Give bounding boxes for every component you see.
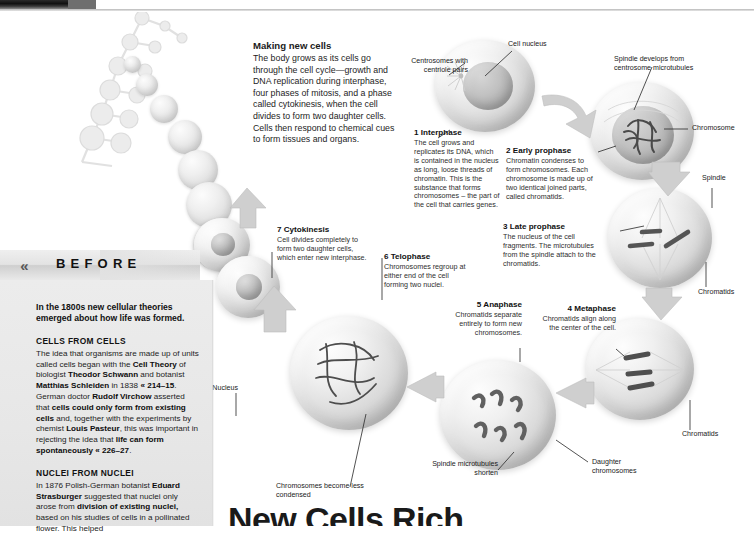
step-6-body: Chromosomes regroup at either end of the…: [384, 263, 472, 290]
step-2-body: Chromatin condenses to form chromosomes.…: [506, 157, 596, 202]
step-1-title: Interphase: [421, 128, 462, 137]
step-7-title: Cytokinesis: [284, 225, 329, 234]
step-2-early-prophase: 2 Early prophase Chromatin condenses to …: [506, 146, 596, 202]
callout-cell-nucleus: Cell nucleus: [508, 40, 588, 49]
before-sidebar: In the 1800s new cellular theories emerg…: [0, 280, 212, 526]
before-section-0-heading: CELLS FROM CELLS: [36, 336, 200, 347]
step-1-body: The cell grows and replicates its DNA, w…: [414, 139, 500, 210]
step-3-number: 3: [503, 222, 508, 231]
step-6-telophase: 6 Telophase Chromosomes regroup at eithe…: [384, 252, 472, 290]
before-label: BEFORE: [56, 256, 141, 271]
sidebar-edge-shadow: [212, 280, 214, 526]
callout-spindle-develops: Spindle develops from centrosome microtu…: [614, 55, 716, 73]
step-5-anaphase: 5 Anaphase Chromatids separate entirely …: [440, 300, 522, 338]
step-1-number: 1: [414, 128, 419, 137]
step-7-number: 7: [277, 225, 282, 234]
before-back-chevron-icon[interactable]: «: [3, 254, 43, 276]
callout-daughter-chromosomes: Daughter chromosomes: [592, 458, 664, 476]
step-4-number: 4: [567, 304, 572, 313]
callout-spindle-shorten: Spindle microtubules shorten: [414, 460, 498, 478]
step-4-metaphase: 4 Metaphase Chromatids align along the c…: [540, 304, 616, 333]
callout-centrosomes: Centrosomes with centriole pairs: [386, 57, 468, 75]
before-section-1-body: In 1876 Polish-German botanist Eduard St…: [36, 481, 200, 535]
step-5-number: 5: [477, 300, 482, 309]
step-7-cytokinesis: 7 Cytokinesis Cell divides completely to…: [277, 225, 373, 263]
step-1-interphase: 1 Interphase The cell grows and replicat…: [414, 128, 500, 210]
callout-chromatids-right: Chromatids: [698, 288, 754, 297]
step-4-body: Chromatids align along the center of the…: [540, 315, 616, 333]
step-2-title: Early prophase: [513, 146, 571, 155]
step-3-title: Late prophase: [510, 222, 565, 231]
step-7-body: Cell divides completely to form two daug…: [277, 236, 373, 263]
before-section-1-heading: NUCLEI FROM NUCLEI: [36, 468, 200, 479]
callout-spindle: Spindle: [702, 174, 754, 183]
before-lead-text: In the 1800s new cellular theories emerg…: [36, 302, 200, 325]
callout-chromosomes-less-condensed: Chromosomes become less condensed: [276, 482, 372, 500]
step-3-late-prophase: 3 Late prophase The nucleus of the cell …: [503, 222, 603, 269]
before-section-0-body: The idea that organisms are made up of u…: [36, 349, 200, 457]
step-3-body: The nucleus of the cell fragments. The m…: [503, 233, 603, 269]
step-5-body: Chromatids separate entirely to form new…: [440, 311, 522, 338]
step-6-title: Telophase: [391, 252, 430, 261]
callout-chromosome: Chromosome: [692, 124, 754, 133]
callout-chromatids-lower: Chromatids: [682, 430, 742, 439]
step-2-number: 2: [506, 146, 511, 155]
next-section-title-partial: New Cells Rich: [228, 502, 658, 526]
step-4-title: Metaphase: [574, 304, 616, 313]
step-6-number: 6: [384, 252, 389, 261]
step-5-title: Anaphase: [483, 300, 522, 309]
